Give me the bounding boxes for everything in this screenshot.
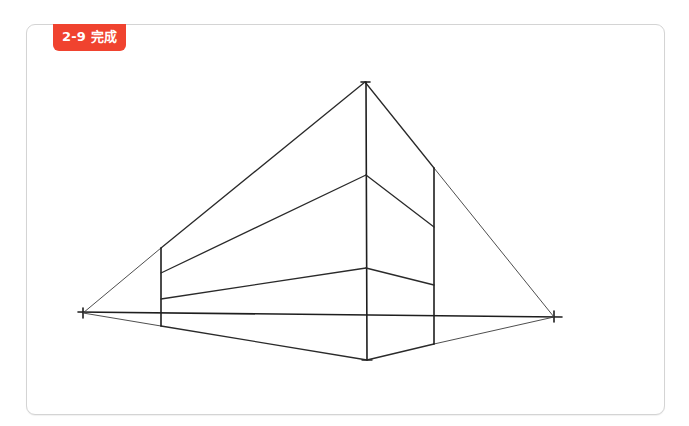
left-upper-perspective-line	[161, 175, 366, 273]
left-bottom-line	[161, 326, 367, 360]
step-label-badge: 2-9 完成	[53, 24, 126, 51]
center-vertical-edge	[366, 82, 367, 360]
right-bottom-line	[367, 344, 434, 360]
right-upper-perspective-line	[366, 175, 434, 227]
right-edge-bottom-to-right-vp	[434, 317, 554, 344]
right-lower-perspective-line	[366, 268, 434, 285]
right-edge-top-to-right-vp	[434, 168, 554, 317]
right-top-roofline	[365, 82, 434, 168]
perspective-drawing	[0, 0, 689, 426]
left-top-roofline	[161, 82, 365, 248]
figure-stage: 2-9 完成	[0, 0, 689, 426]
left-vp-to-left-edge-top	[83, 248, 161, 313]
left-lower-perspective-line	[161, 268, 366, 299]
horizon-line	[78, 312, 562, 317]
left-vp-to-left-edge-bottom	[83, 313, 161, 326]
